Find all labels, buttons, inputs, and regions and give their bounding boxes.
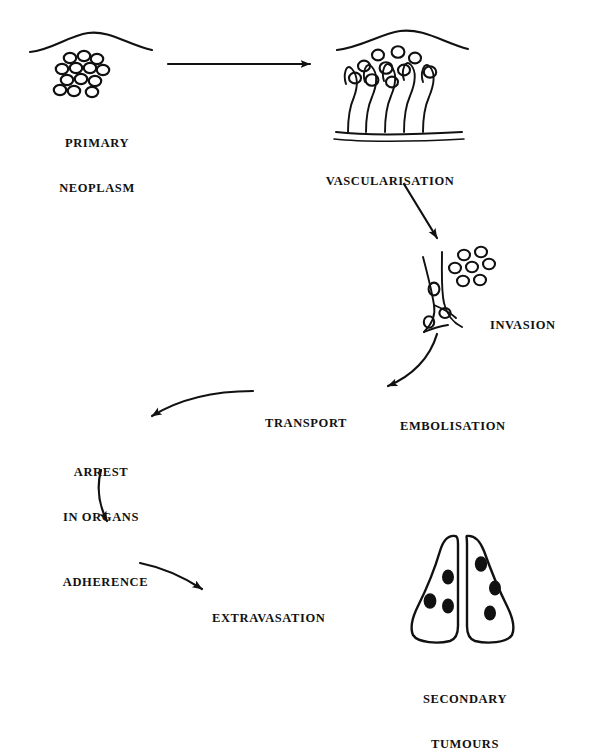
label-adherence: ADHERENCE	[48, 545, 163, 620]
label-embolisation-line1: EMBOLISATION	[400, 419, 540, 434]
label-invasion-line1: INVASION	[490, 318, 595, 333]
left-lung-lobe	[412, 536, 458, 643]
label-vascularisation: VASCULARISATION	[300, 144, 480, 219]
arrow-transport-to-arrest	[152, 391, 253, 416]
label-primary-neoplasm-line1: PRIMARY	[22, 136, 172, 151]
label-vascularisation-line1: VASCULARISATION	[300, 174, 480, 189]
label-adherence-line1: ADHERENCE	[48, 575, 163, 590]
label-secondary-tumours: SECONDARY TUMOURS	[400, 662, 530, 752]
secondary-tumours-illustration	[412, 536, 514, 643]
label-secondary-tumours-line2: TUMOURS	[400, 737, 530, 752]
invasion-illustration	[423, 247, 495, 332]
label-primary-neoplasm-line2: NEOPLASM	[22, 181, 172, 196]
basement-membrane-line-2	[334, 139, 464, 141]
label-transport: TRANSPORT	[265, 386, 380, 461]
label-arrest-in-organs-line2: IN ORGANS	[46, 510, 156, 525]
invasion-cells-outside	[449, 247, 495, 286]
tissue-surface-curve	[30, 33, 152, 52]
basement-membrane-line	[336, 132, 462, 134]
label-arrest-in-organs: ARREST IN ORGANS	[46, 435, 156, 555]
vascularisation-illustration	[334, 31, 468, 142]
label-primary-neoplasm: PRIMARY NEOPLASM	[22, 106, 172, 226]
primary-neoplasm-illustration	[30, 33, 152, 98]
label-arrest-in-organs-line1: ARREST	[46, 465, 156, 480]
label-secondary-tumours-line1: SECONDARY	[400, 692, 530, 707]
arrow-invasion-to-transport	[388, 334, 437, 386]
tumour-cell-cluster	[54, 51, 109, 97]
invasion-cells-inside-vessel	[424, 283, 451, 328]
label-embolisation: EMBOLISATION	[400, 389, 540, 464]
label-transport-line1: TRANSPORT	[265, 416, 380, 431]
label-extravasation-line1: EXTRAVASATION	[212, 611, 362, 626]
label-extravasation: EXTRAVASATION	[212, 581, 362, 656]
label-invasion: INVASION	[490, 288, 595, 363]
